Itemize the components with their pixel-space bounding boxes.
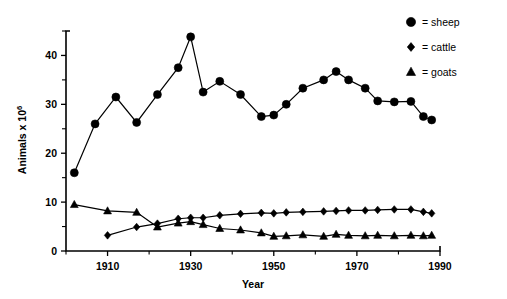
legend-label-sheep: = sheep <box>422 16 460 28</box>
x-axis-title: Year <box>242 278 264 290</box>
x-tick-label: 1930 <box>179 260 203 272</box>
data-point-sheep <box>199 88 207 96</box>
y-tick-label: 10 <box>45 196 57 208</box>
y-axis-line <box>66 31 440 251</box>
y-axis-title: Animals x 106 <box>15 106 28 174</box>
data-point-sheep <box>345 76 353 84</box>
series-goats <box>70 200 435 239</box>
data-point-goats <box>299 231 307 238</box>
data-point-cattle <box>391 206 397 214</box>
data-point-cattle <box>362 207 368 215</box>
data-point-cattle <box>428 210 434 218</box>
data-point-cattle <box>104 232 110 240</box>
chart-axes <box>66 31 440 251</box>
data-point-cattle <box>237 210 243 218</box>
y-tick-label: 30 <box>45 98 57 110</box>
data-point-cattle <box>133 223 139 231</box>
data-point-sheep <box>320 76 328 84</box>
y-tick-label: 0 <box>51 245 57 257</box>
data-point-goats <box>70 200 78 207</box>
data-point-cattle <box>300 208 306 216</box>
legend-item-goats: = goats <box>406 66 456 78</box>
legend-marker-diamond <box>407 43 414 52</box>
legend-item-sheep: = sheep <box>406 16 459 28</box>
data-point-cattle <box>217 212 223 220</box>
data-point-sheep <box>390 98 398 106</box>
series-cattle <box>104 206 435 239</box>
y-tick-label: 20 <box>45 147 57 159</box>
data-point-sheep <box>428 116 436 124</box>
data-point-cattle <box>283 209 289 217</box>
legend-item-cattle: = cattle <box>407 41 456 53</box>
x-tick-label: 1970 <box>345 260 369 272</box>
data-point-sheep <box>332 68 340 76</box>
data-point-cattle <box>408 206 414 214</box>
x-tick-label: 1990 <box>428 260 452 272</box>
y-tick-label: 40 <box>45 49 57 61</box>
data-point-cattle <box>333 207 339 215</box>
x-axis-tick-labels: 19101930195019701990 <box>96 260 452 272</box>
legend-marker-circle <box>406 17 415 26</box>
data-point-sheep <box>374 97 382 105</box>
data-point-sheep <box>407 97 415 105</box>
legend-label-goats: = goats <box>422 66 457 78</box>
data-point-sheep <box>299 84 307 92</box>
data-point-sheep <box>112 93 120 101</box>
y-axis-title-main: Animals x 10 <box>16 110 28 174</box>
data-point-cattle <box>271 210 277 218</box>
data-point-sheep <box>133 118 141 126</box>
data-point-cattle <box>374 206 380 214</box>
data-point-sheep <box>216 77 224 85</box>
line-chart-canvas: 19101930195019701990 010203040 = sheep= … <box>0 0 507 299</box>
x-tick-label: 1910 <box>96 260 120 272</box>
data-point-sheep <box>270 111 278 119</box>
data-point-sheep <box>91 120 99 128</box>
data-point-cattle <box>420 208 426 216</box>
data-point-cattle <box>320 208 326 216</box>
data-point-sheep <box>419 113 427 121</box>
series-layer <box>70 33 435 239</box>
data-point-goats <box>332 230 340 237</box>
x-tick-label: 1950 <box>262 260 286 272</box>
data-point-goats <box>407 231 415 238</box>
data-point-sheep <box>70 169 78 177</box>
chart-figure: 19101930195019701990 010203040 = sheep= … <box>0 0 507 299</box>
chart-legend: = sheep= cattle= goats <box>406 16 459 78</box>
data-point-sheep <box>282 100 290 108</box>
data-point-sheep <box>187 33 195 41</box>
data-point-sheep <box>237 91 245 99</box>
data-point-cattle <box>258 209 264 217</box>
data-point-sheep <box>361 84 369 92</box>
data-point-sheep <box>257 113 265 121</box>
data-point-sheep <box>153 91 161 99</box>
legend-marker-triangle <box>406 67 415 75</box>
y-axis-tick-labels: 010203040 <box>45 49 57 257</box>
data-point-goats <box>374 231 382 238</box>
y-axis-title-exponent: 6 <box>15 106 24 110</box>
series-sheep <box>70 33 435 177</box>
data-point-cattle <box>345 207 351 215</box>
data-point-goats <box>428 231 436 238</box>
legend-label-cattle: = cattle <box>422 41 456 53</box>
data-point-sheep <box>174 64 182 72</box>
